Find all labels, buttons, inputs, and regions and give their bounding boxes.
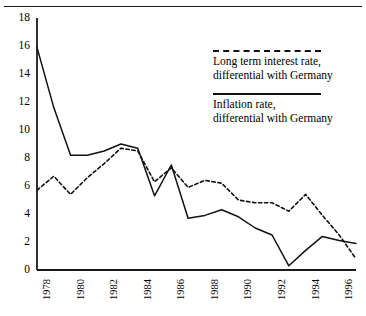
legend-label-line2: differential with Germany [213,112,361,126]
legend-label-line1: Inflation rate, [213,98,361,112]
legend-label-line2: differential with Germany [213,69,361,83]
chart-figure: 181614121086420 197819801982198419861988… [0,0,366,316]
legend-label-line1: Long term interest rate, [213,55,361,69]
series-line-long-term-interest-rate [37,148,356,259]
legend-dashed-line-icon [213,50,321,52]
plot-area [0,0,366,316]
legend-entry-inflation-rate: Inflation rate, differential with German… [213,93,361,125]
legend-solid-line-icon [213,93,321,95]
legend-entry-long-term-interest-rate: Long term interest rate, differential wi… [213,50,361,82]
chart-legend: Long term interest rate, differential wi… [213,50,361,136]
